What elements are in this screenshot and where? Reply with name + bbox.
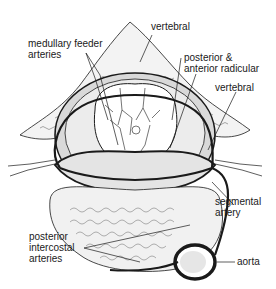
label-posterior-intercostal-arteries: posterior intercostal arteries bbox=[29, 231, 75, 264]
label-line: artery bbox=[215, 207, 261, 218]
label-line: posterior & bbox=[184, 52, 259, 63]
label-line: arteries bbox=[28, 49, 102, 60]
label-line: anterior radicular bbox=[184, 63, 259, 74]
label-line: posterior bbox=[29, 231, 75, 242]
label-aorta: aorta bbox=[237, 256, 260, 267]
label-line: segmental bbox=[215, 196, 261, 207]
annulus bbox=[55, 151, 215, 192]
label-vertebral-right: vertebral bbox=[215, 82, 254, 93]
spinal-artery-diagram: medullary feeder arteries vertebral post… bbox=[0, 0, 276, 289]
label-radicular: posterior & anterior radicular bbox=[184, 52, 259, 74]
label-line: arteries bbox=[29, 253, 75, 264]
label-line: intercostal bbox=[29, 242, 75, 253]
label-line: medullary feeder bbox=[28, 38, 102, 49]
label-segmental-artery: segmental artery bbox=[215, 196, 261, 218]
label-medullary-feeder-arteries: medullary feeder arteries bbox=[28, 38, 102, 60]
label-vertebral-top: vertebral bbox=[151, 21, 190, 32]
